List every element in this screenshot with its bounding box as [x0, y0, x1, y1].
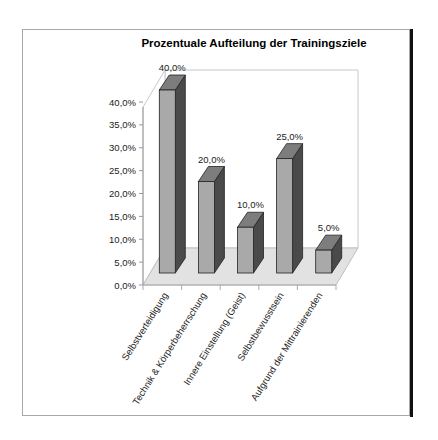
y-tick-label: 10,0% — [109, 234, 136, 245]
data-label: 25,0% — [276, 131, 303, 142]
y-tick-label: 0,0% — [114, 280, 136, 291]
data-label: 40,0% — [159, 62, 186, 73]
y-tick-label: 20,0% — [109, 188, 136, 199]
chart-plot: 0,0%5,0%10,0%15,0%20,0%25,0%30,0%35,0%40… — [0, 0, 438, 440]
y-tick-label: 35,0% — [109, 119, 136, 130]
x-category-label: Aufgrund der Mittrainierenden — [248, 290, 324, 402]
bar-front — [159, 90, 175, 273]
y-tick-label: 25,0% — [109, 165, 136, 176]
y-tick-label: 5,0% — [114, 257, 136, 268]
x-category-label: Technik & Körperbeherrschung — [130, 290, 208, 406]
bar-front — [277, 159, 293, 273]
data-label: 5,0% — [318, 222, 340, 233]
bar-front — [316, 250, 332, 273]
bar-front — [198, 182, 214, 274]
data-label: 20,0% — [198, 154, 225, 165]
data-label: 10,0% — [237, 199, 264, 210]
bar-front — [238, 227, 254, 273]
y-tick-label: 30,0% — [109, 142, 136, 153]
bar-side — [175, 75, 185, 273]
y-tick-label: 15,0% — [109, 211, 136, 222]
y-tick-label: 40,0% — [109, 97, 136, 108]
bar-side — [214, 167, 224, 274]
bar-side — [293, 144, 303, 273]
